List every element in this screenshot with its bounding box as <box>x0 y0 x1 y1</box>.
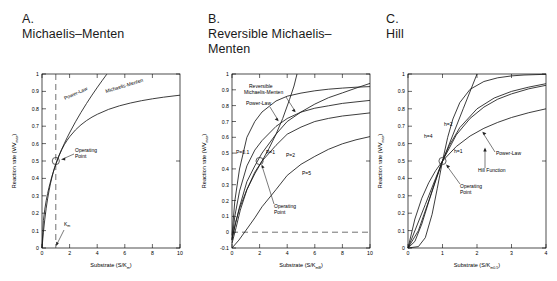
ytick-4: 0.4 <box>32 175 39 181</box>
label-h-2: h=2 <box>444 121 453 127</box>
operating-point-label-c-2: Point <box>460 189 472 195</box>
label-michaelis-menten: Michaelis-Menten <box>105 77 144 94</box>
ytick-6: 0.6 <box>398 141 405 147</box>
operating-point-label-2: Point <box>75 153 87 159</box>
panel-c-xaxis-label: Substrate (S/Km0.5) <box>454 262 500 270</box>
xtick-1: 1 <box>441 250 444 256</box>
label-p-0-1: P=0.1 <box>236 149 249 155</box>
ytick-8: 0.7 <box>222 119 229 125</box>
panel-a: A. Michaelis–Menten <box>0 0 196 281</box>
ytick-0: 0 <box>36 245 39 251</box>
panel-b-yaxis-label: Reaction rate (V/Vmax) <box>201 134 209 189</box>
curve-p-0-1 <box>232 87 370 236</box>
ytick-3: 0.2 <box>222 198 229 204</box>
ytick-8: 0.8 <box>32 106 39 112</box>
panel-b-plot: 0 2 4 6 8 10 -0.1 0 0.1 0.2 0.3 0.4 0.5 … <box>192 62 382 281</box>
ytick-5: 0.5 <box>398 158 405 164</box>
label-p-5: P=5 <box>302 170 311 176</box>
ytick-2: 0.2 <box>398 210 405 216</box>
xtick-4: 8 <box>341 250 344 256</box>
power-law-annotation-c: Power-Law <box>482 132 521 156</box>
ytick-7: 0.6 <box>222 134 229 140</box>
panel-c-heading: C. Hill <box>386 12 404 42</box>
curve-h-2 <box>408 84 546 248</box>
curve-reversible-mm <box>232 83 370 238</box>
xtick-3: 6 <box>313 250 316 256</box>
panel-b-yticklabels: -0.1 0 0.1 0.2 0.3 0.4 0.5 0.6 0.7 0.8 0… <box>220 71 229 251</box>
xtick-1: 2 <box>68 250 71 256</box>
ytick-5: 0.4 <box>222 166 229 172</box>
label-h-1: h=1 <box>454 148 463 154</box>
panel-c-plot: 0 1 2 3 4 0 0.1 0.2 0.3 0.4 0.5 0.6 0.7 … <box>368 62 557 281</box>
xtick-3: 6 <box>123 250 126 256</box>
ytick-4: 0.3 <box>222 182 229 188</box>
xtick-4: 8 <box>151 250 154 256</box>
ytick-9: 0.8 <box>222 103 229 109</box>
ytick-9: 0.9 <box>398 88 405 94</box>
panel-a-plot: 0 2 4 6 8 10 0 0.1 0.2 0.3 0.4 0.5 0.6 0… <box>0 62 196 281</box>
ytick-2: 0.2 <box>32 210 39 216</box>
km-annotation: Km <box>56 221 70 246</box>
panel-c: C. Hill <box>368 0 557 281</box>
xtick-2: 4 <box>96 250 99 256</box>
panel-b-xaxis-label: Substrate (S/KmB) <box>279 262 323 270</box>
ytick-2: 0.1 <box>222 213 229 219</box>
operating-point-annotation: Operating Point <box>62 147 98 160</box>
km-label: Km <box>64 221 70 228</box>
label-p-2: P=2 <box>286 152 295 158</box>
panel-c-xticklabels: 0 1 2 3 4 <box>407 250 548 256</box>
panel-a-heading: A. Michaelis–Menten <box>22 12 124 42</box>
ytick-6: 0.5 <box>222 150 229 156</box>
panel-c-axes <box>408 74 546 248</box>
ytick-1: 0.1 <box>398 228 405 234</box>
xtick-0: 0 <box>407 250 410 256</box>
panel-b-xticklabels: 0 2 4 6 8 10 <box>231 250 373 256</box>
curve-p-5 <box>232 137 370 248</box>
ytick-3: 0.3 <box>32 193 39 199</box>
panel-b-heading: B. Reversible Michaelis– Menten <box>208 12 332 57</box>
panel-b: B. Reversible Michaelis– Menten <box>192 0 382 281</box>
curve-michaelis-menten <box>42 95 180 248</box>
reversible-mm-annotation: Reversible Michaelis-Menten <box>244 83 296 112</box>
ytick-8: 0.8 <box>398 106 405 112</box>
xtick-0: 0 <box>41 250 44 256</box>
xtick-0: 0 <box>231 250 234 256</box>
ytick-9: 0.9 <box>32 88 39 94</box>
xtick-3: 3 <box>510 250 513 256</box>
label-h-4: h=4 <box>424 133 433 139</box>
panel-a-xticklabels: 0 2 4 6 8 10 <box>41 250 183 256</box>
panel-c-yticklabels: 0 0.1 0.2 0.3 0.4 0.5 0.6 0.7 0.8 0.9 1 <box>398 71 405 251</box>
xtick-1: 2 <box>258 250 261 256</box>
ytick-1: 0.1 <box>32 228 39 234</box>
operating-point-label-b-2: Point <box>274 209 286 215</box>
ytick-1: 0 <box>226 229 229 235</box>
curve-h-4 <box>408 74 546 248</box>
xtick-2: 2 <box>476 250 479 256</box>
ytick-10: 0.9 <box>222 87 229 93</box>
label-power-law-b: Power-Law <box>246 100 271 106</box>
panel-c-yaxis-label: Reaction rate (V/Vmax) <box>377 134 385 189</box>
figure-root: A. Michaelis–Menten <box>0 0 557 281</box>
ytick-6: 0.6 <box>32 141 39 147</box>
ytick-4: 0.4 <box>398 175 405 181</box>
ytick-7: 0.7 <box>398 123 405 129</box>
curve-power-law <box>42 74 107 248</box>
label-power-law: Power-Law <box>63 85 89 101</box>
ytick-3: 0.3 <box>398 193 405 199</box>
ytick-10: 1 <box>36 71 39 77</box>
xtick-2: 4 <box>286 250 289 256</box>
xtick-4: 4 <box>545 250 548 256</box>
ytick-5: 0.5 <box>32 158 39 164</box>
ytick-0: 0 <box>402 245 405 251</box>
xtick-5: 10 <box>177 250 183 256</box>
label-p-1: P=1 <box>266 149 275 155</box>
ytick-11: 1 <box>226 71 229 77</box>
label-power-law-c: Power-Law <box>496 150 521 156</box>
operating-point-annotation-c: Operating Point <box>446 165 482 195</box>
label-hill-function: Hill Function <box>478 167 506 173</box>
panel-a-yaxis-label: Reaction rate (V/Vmax) <box>11 134 19 189</box>
ytick-0: -0.1 <box>220 245 229 251</box>
label-reversible-mm-2: Michaelis-Menten <box>244 89 283 95</box>
ytick-7: 0.7 <box>32 123 39 129</box>
panel-a-axes <box>42 74 180 248</box>
